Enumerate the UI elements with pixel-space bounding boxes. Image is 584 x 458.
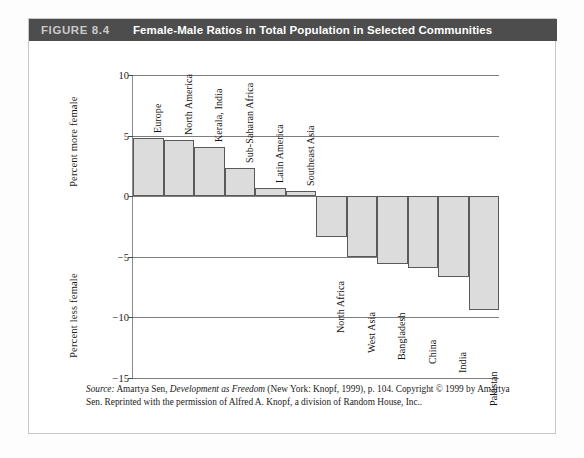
- y-axis-tick-labels: 1050−5−10−15: [95, 41, 129, 435]
- bar-india: [438, 196, 469, 277]
- bar-southeast-asia: [286, 191, 317, 196]
- bars-group: EuropeNorth AmericaKerala, IndiaSub-Saha…: [133, 41, 499, 435]
- source-note: Source: Amartya Sen, Development as Free…: [86, 383, 516, 410]
- bar-label-india: India: [457, 352, 468, 373]
- bar-sub-saharan-africa: [225, 168, 256, 196]
- chart-graph: EuropeNorth AmericaKerala, IndiaSub-Saha…: [132, 41, 512, 435]
- bar-label-europe: Europe: [152, 104, 163, 133]
- bar-china: [408, 196, 439, 268]
- y-axis-tick-neg5: −5: [95, 251, 129, 262]
- bar-label-west-asia: West Asia: [366, 312, 377, 353]
- bar-bangladesh: [377, 196, 408, 264]
- bar-latin-america: [255, 188, 286, 196]
- y-axis-tick-5: 5: [95, 130, 129, 141]
- bar-label-southeast-asia: Southeast Asia: [305, 125, 316, 186]
- y-axis-tick-10: 10: [95, 70, 129, 81]
- bar-north-america: [164, 140, 195, 196]
- bar-label-latin-america: Latin America: [274, 124, 285, 183]
- bar-kerala-india: [194, 147, 225, 197]
- figure-card: FIGURE 8.4 Female-Male Ratios in Total P…: [28, 18, 556, 434]
- bar-label-china: China: [427, 339, 438, 363]
- chart-plot-area: Percent more female Percent less female …: [29, 41, 557, 435]
- y-axis-tick-0: 0: [95, 191, 129, 202]
- axis-title-percent-more-female: Percent more female: [68, 96, 79, 187]
- axis-title-percent-less-female: Percent less female: [68, 273, 79, 358]
- bar-label-sub-saharan-africa: Sub-Saharan Africa: [244, 83, 255, 163]
- source-work-title: Development as Freedom: [170, 384, 265, 394]
- bar-label-bangladesh: Bangladesh: [396, 312, 407, 360]
- source-label: Source:: [86, 384, 115, 394]
- y-axis-tick-neg15: −15: [95, 373, 129, 384]
- y-axis-tick-neg10: −10: [95, 312, 129, 323]
- page-background: FIGURE 8.4 Female-Male Ratios in Total P…: [0, 0, 584, 458]
- bar-europe: [133, 138, 164, 196]
- bar-label-north-america: North America: [183, 74, 194, 135]
- bar-north-africa: [316, 196, 347, 237]
- figure-header: FIGURE 8.4 Female-Male Ratios in Total P…: [29, 19, 557, 41]
- figure-title: Female-Male Ratios in Total Population i…: [133, 24, 492, 36]
- figure-number: FIGURE 8.4: [29, 24, 133, 36]
- bar-pakistan: [469, 196, 500, 310]
- bar-label-north-africa: North Africa: [335, 281, 346, 333]
- bar-west-asia: [347, 196, 378, 257]
- source-text-1: Amartya Sen,: [115, 384, 170, 394]
- bar-label-kerala-india: Kerala, India: [213, 88, 224, 142]
